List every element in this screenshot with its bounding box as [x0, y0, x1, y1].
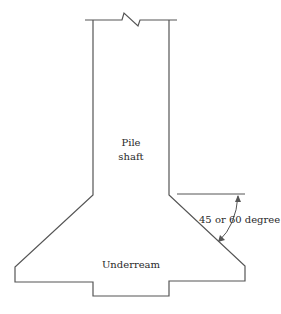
pile-shaft-label-line1: Pile: [121, 137, 140, 148]
shaft-break-line: [85, 13, 177, 26]
pile-diagram: Pile shaft Underream 45 or 60 degree: [0, 0, 281, 314]
underream-label: Underream: [102, 259, 161, 270]
angle-label: 45 or 60 degree: [199, 214, 280, 225]
arrowhead-top-icon: [235, 195, 241, 202]
pile-shaft-label-line2: shaft: [118, 151, 143, 162]
